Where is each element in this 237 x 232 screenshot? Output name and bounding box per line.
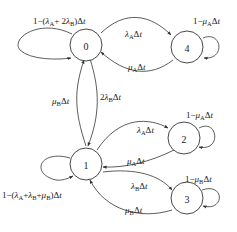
label-0-self: 1−(λA+ 2λB)Δt [33, 16, 86, 27]
label-1-2: λAΔt [136, 125, 154, 136]
node-1: 1 [70, 148, 102, 180]
label-1-self: 1−(λA+λB+μB)Δt [2, 190, 62, 201]
markov-diagram: 0 4 1 2 3 1−(λA+ 2λB)Δt λAΔt μAΔt 1−μAΔt… [0, 0, 237, 232]
label-4-0: μAΔt [127, 62, 146, 73]
label-4-self: 1−μAΔt [193, 16, 221, 27]
svg-text:1: 1 [84, 160, 89, 171]
label-1-3: λBΔt [130, 181, 148, 192]
label-3-self: 1−μBΔt [185, 174, 212, 185]
label-0-4: λAΔt [124, 29, 142, 40]
svg-text:2: 2 [182, 134, 187, 145]
svg-text:4: 4 [185, 43, 190, 54]
node-3: 3 [171, 182, 203, 214]
node-0: 0 [70, 29, 102, 61]
node-2: 2 [168, 122, 200, 154]
svg-text:3: 3 [185, 194, 190, 205]
label-1-0: μBΔt [51, 96, 70, 107]
svg-text:0: 0 [84, 41, 89, 52]
node-4: 4 [171, 31, 203, 63]
label-2-1: μAΔt [126, 156, 145, 167]
label-0-1: 2λBΔt [100, 92, 122, 103]
label-2-self: 1−μAΔt [186, 110, 214, 121]
label-3-1: μBΔt [124, 205, 143, 216]
